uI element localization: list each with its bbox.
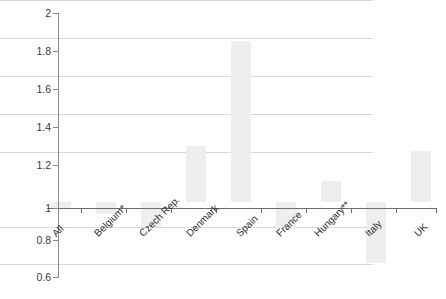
gridline-1.8 [0, 38, 373, 39]
gridline-0.6 [0, 264, 373, 265]
baseline-axis [47, 208, 437, 209]
bar-denmark [186, 146, 206, 203]
ytick-label-1.6: 1.6 [7, 84, 51, 94]
ytick-mark-1.2 [53, 165, 59, 166]
ytick-mark-1.8 [53, 51, 59, 52]
gridline-1.6 [0, 76, 373, 77]
xtick-mark-1 [81, 208, 82, 213]
bar-hungary [321, 181, 341, 202]
ytick-mark-1.0 [53, 208, 59, 209]
ytick-mark-0.6 [53, 277, 59, 278]
ytick-label-1.2: 1.2 [7, 160, 51, 170]
ytick-label-0.8: 0.8 [7, 235, 51, 245]
gridline-1.4 [0, 114, 373, 115]
ytick-mark-1.6 [53, 89, 59, 90]
bar-uk [411, 151, 431, 202]
xtick-mark-7 [351, 208, 352, 213]
bar-spain [231, 41, 251, 202]
bar-chart: 2 1.8 1.6 1.4 1.2 1 0.8 0.6 All Belgium*… [0, 0, 446, 299]
xtick-label-uk: UK [412, 221, 430, 239]
ytick-label-2.0: 2 [7, 8, 51, 18]
ytick-mark-0.8 [53, 240, 59, 241]
xtick-mark-5 [261, 208, 262, 213]
xtick-mark-6 [306, 208, 307, 213]
xtick-label-hungary: Hungary** [312, 199, 352, 239]
ytick-mark-2.0 [53, 13, 59, 14]
ytick-label-1.8: 1.8 [7, 46, 51, 56]
xtick-label-spain: Spain [234, 213, 260, 239]
gridline-2.0 [0, 0, 373, 1]
xtick-mark-9 [436, 208, 437, 213]
xtick-mark-8 [396, 208, 397, 213]
ytick-label-1.4: 1.4 [7, 122, 51, 132]
ytick-label-0.6: 0.6 [7, 272, 51, 282]
ytick-mark-1.4 [53, 127, 59, 128]
ytick-label-1.0: 1 [7, 203, 51, 213]
xtick-label-all: All [50, 223, 66, 239]
